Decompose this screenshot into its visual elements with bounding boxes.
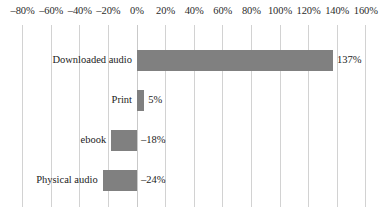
x-tick-label: 0% [130, 5, 144, 16]
x-tick-label: 120% [297, 5, 321, 16]
value-label: 137% [337, 52, 362, 68]
bar-row: Downloaded audio137% [0, 41, 387, 81]
x-tick-label: 60% [213, 5, 232, 16]
bar [103, 170, 137, 191]
x-tick-label: 20% [156, 5, 175, 16]
x-tick-label: 80% [242, 5, 261, 16]
bar-row: Physical audio–24% [0, 161, 387, 201]
bar [137, 50, 333, 71]
category-label: Physical audio [36, 172, 98, 188]
bar-chart: –80%–60%–40%–20%0%20%40%60%80%100%120%14… [0, 0, 387, 224]
x-axis-tick-label-row: –80%–60%–40%–20%0%20%40%60%80%100%120%14… [0, 0, 387, 24]
x-tick-label: 100% [268, 5, 292, 16]
x-tick-label: 40% [185, 5, 204, 16]
value-label: –24% [141, 172, 166, 188]
category-label: Print [112, 92, 132, 108]
value-label: 5% [148, 92, 162, 108]
bar [111, 130, 137, 151]
value-label: –18% [141, 132, 166, 148]
plot-area: Downloaded audio137%Print5%ebook–18%Phys… [0, 25, 387, 207]
x-tick-label: –80% [11, 5, 35, 16]
x-tick-label: –20% [96, 5, 120, 16]
bar [137, 90, 144, 111]
x-tick-label: –60% [39, 5, 63, 16]
category-label: Downloaded audio [52, 52, 132, 68]
category-label: ebook [81, 132, 107, 148]
x-tick-label: 160% [354, 5, 378, 16]
bar-row: Print5% [0, 81, 387, 121]
bar-row: ebook–18% [0, 121, 387, 161]
x-tick-label: 140% [325, 5, 349, 16]
x-tick-label: –40% [68, 5, 92, 16]
